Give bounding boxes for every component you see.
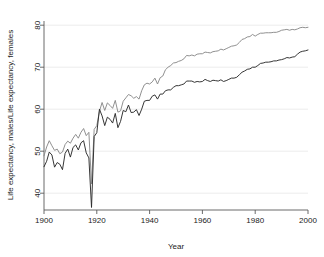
life-expectancy-line-chart: 4050607080 190019201940196019802000 Year… [0,0,324,257]
chart-figure: 4050607080 190019201940196019802000 Year… [0,0,324,257]
y-tick-label: 60 [33,104,42,113]
y-tick-label: 80 [33,20,42,29]
x-tick-label: 1940 [141,216,159,225]
y-axis-title: Life expectancy, males/Life expectancy, … [6,30,15,200]
y-tick-label: 70 [33,62,42,71]
x-tick-label: 1900 [35,216,53,225]
x-tick-label: 1920 [88,216,106,225]
x-tick-label: 2000 [299,216,317,225]
x-tick-label: 1980 [246,216,264,225]
x-axis-title: Year [168,242,185,251]
y-tick-label: 40 [33,188,42,197]
y-tick-label: 50 [33,146,42,155]
plot-area-background [44,21,308,210]
x-tick-label: 1960 [194,216,212,225]
